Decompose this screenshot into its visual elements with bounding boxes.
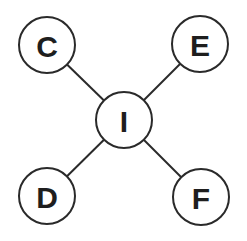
node-i: I: [96, 92, 152, 148]
node-e-label: E: [190, 29, 210, 62]
node-d-label: D: [36, 181, 58, 214]
node-c-label: C: [36, 30, 58, 63]
star-diagram: C E I D F: [0, 0, 247, 241]
node-f-label: F: [192, 182, 210, 215]
node-i-label: I: [120, 105, 128, 138]
node-e: E: [172, 16, 228, 72]
node-f: F: [173, 169, 229, 225]
node-c: C: [19, 17, 75, 73]
node-d: D: [19, 168, 75, 224]
